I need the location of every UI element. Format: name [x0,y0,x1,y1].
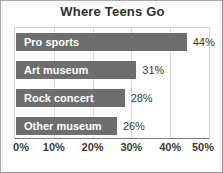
bar-category-label: Rock concert [24,89,94,107]
bar-row: Other museum26% [15,117,209,135]
bar-value-label: 28% [131,89,153,107]
plot-area: Pro sports44%Art museum31%Rock concert28… [14,27,210,139]
x-tick-label: 0% [13,141,29,153]
x-tick-label: 50% [192,141,214,153]
bar-category-label: Other museum [24,117,102,135]
bar-row: Rock concert28% [15,89,209,107]
bar-category-label: Art museum [24,61,88,79]
x-tick-label: 40% [159,141,181,153]
chart-title: Where Teens Go [1,4,223,19]
x-tick-label: 20% [82,141,104,153]
bar-value-label: 44% [193,33,215,51]
bar: Pro sports [16,33,187,51]
x-tick-label: 10% [43,141,65,153]
bar-value-label: 31% [142,61,164,79]
bars-container: Pro sports44%Art museum31%Rock concert28… [15,28,209,138]
x-tick-label: 30% [120,141,142,153]
bar-category-label: Pro sports [24,33,79,51]
bar: Other museum [16,117,117,135]
bar-row: Pro sports44% [15,33,209,51]
x-axis-tick-labels: 0%10%20%30%40%50% [14,141,210,157]
bar: Rock concert [16,89,125,107]
bar: Art museum [16,61,136,79]
bar-value-label: 26% [123,117,145,135]
chart-figure: Where Teens Go Pro sports44%Art museum31… [0,0,223,173]
bar-row: Art museum31% [15,61,209,79]
